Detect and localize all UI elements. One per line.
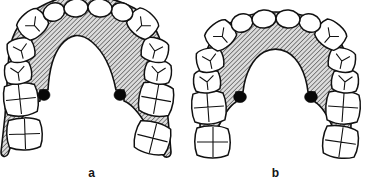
palatal-markers <box>38 90 126 101</box>
panel-b-drawing <box>184 0 367 185</box>
molar-upper-left-first <box>191 90 228 125</box>
panel-a-label: a <box>0 167 183 179</box>
molar-upper-right-second <box>321 124 361 161</box>
molar-upper-left-first <box>2 81 40 118</box>
molar-upper-right-first <box>136 80 176 119</box>
palatal-marker-right <box>114 90 126 101</box>
palatal-markers <box>234 91 318 102</box>
panel-a: a <box>0 0 183 185</box>
palatal-marker-right <box>305 91 318 102</box>
panel-a-drawing <box>0 0 183 185</box>
molar-upper-left-second <box>195 126 231 158</box>
panel-b: b <box>184 0 367 185</box>
molar-upper-right-first <box>325 90 362 125</box>
molar-upper-left-second <box>6 117 43 150</box>
palatal-marker-left <box>234 91 247 102</box>
dental-arch-figure: a <box>0 0 367 185</box>
panel-b-label: b <box>184 167 367 179</box>
palatal-marker-left <box>38 90 50 101</box>
